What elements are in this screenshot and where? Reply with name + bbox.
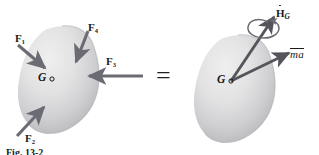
force-label-f1-text: F₁ — [15, 32, 25, 44]
figure-caption: Fig. 13-2 — [6, 147, 43, 155]
left-body-group — [17, 26, 143, 136]
hg-symbol: H — [276, 8, 285, 19]
force-label-f2-text: F₂ — [25, 132, 35, 144]
hg-subscript: G — [285, 12, 290, 21]
force-label-f4: F₄ — [88, 22, 98, 33]
figure-caption-text: Fig. 13-2 — [6, 147, 43, 155]
equals-sign-text: = — [156, 61, 171, 90]
figure-container: F₁ F₄ F₃ F₂ G = G HG ma Fig. 13-2 — [0, 0, 319, 155]
vector-label-ma: ma — [290, 48, 304, 61]
right-body-blob — [194, 35, 275, 143]
ma-symbol: ma — [290, 48, 304, 61]
right-center-label: G — [217, 74, 225, 86]
vector-label-hg: HG — [276, 8, 290, 19]
force-label-f2: F₂ — [25, 133, 35, 144]
force-label-f3: F₃ — [106, 56, 116, 67]
right-center-label-text: G — [217, 73, 225, 85]
left-body-blob — [18, 26, 99, 134]
equals-sign: = — [156, 63, 171, 89]
left-center-label: G — [38, 72, 46, 84]
right-body-group — [194, 17, 289, 143]
force-label-f4-text: F₄ — [88, 21, 98, 33]
force-label-f3-text: F₃ — [106, 55, 116, 67]
force-label-f1: F₁ — [15, 33, 25, 44]
left-center-label-text: G — [38, 71, 46, 83]
